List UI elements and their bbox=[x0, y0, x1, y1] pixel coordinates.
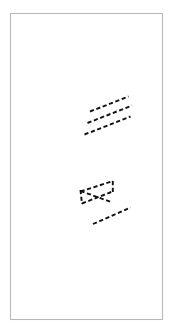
figure-background bbox=[0, 0, 185, 335]
figure-root bbox=[0, 0, 185, 335]
line-figure-canvas bbox=[0, 0, 185, 335]
